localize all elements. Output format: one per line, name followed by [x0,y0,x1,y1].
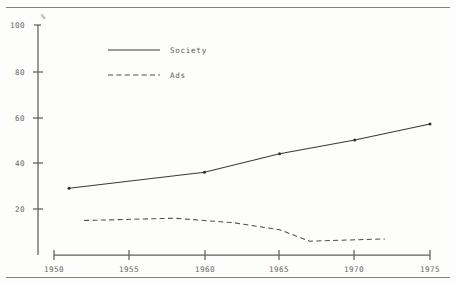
chart-legend: Society Ads [108,46,207,80]
y-axis-unit-label: % [41,13,46,21]
x-tick-label-1965: 1965 [269,265,289,274]
society-data-point [429,122,432,125]
ads-line [84,218,385,241]
society-line [69,124,430,188]
legend-label-ads: Ads [170,71,186,80]
society-data-point [278,152,281,155]
y-tick-label-40: 40 [15,159,25,168]
x-tick-label-1975: 1975 [420,265,440,274]
legend-label-society: Society [170,46,207,55]
y-tick-label-20: 20 [15,205,25,214]
line-chart: 100 80 60 40 20 % 1950 1955 1960 1965 19… [0,0,456,284]
society-data-point [353,139,356,142]
series-ads [84,218,385,241]
x-tick-label-1970: 1970 [344,265,364,274]
series-society [68,122,432,189]
society-data-point [68,187,71,190]
x-axis: 1950 1955 1960 1965 1970 1975 [44,250,440,274]
society-vertices [68,122,432,189]
x-tick-label-1950: 1950 [44,265,64,274]
y-tick-label-80: 80 [15,68,25,77]
figure-container: 100 80 60 40 20 % 1950 1955 1960 1965 19… [0,0,456,284]
society-data-point [203,171,206,174]
x-tick-label-1955: 1955 [119,265,139,274]
y-tick-label-60: 60 [15,114,25,123]
x-tick-label-1960: 1960 [195,265,215,274]
y-axis: 100 80 60 40 20 % [10,13,46,255]
y-tick-label-100: 100 [10,21,25,30]
